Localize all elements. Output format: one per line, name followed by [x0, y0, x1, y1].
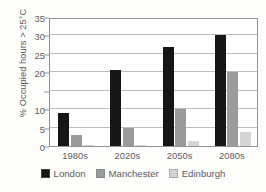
plot-area — [49, 18, 258, 147]
x-axis-tick-label: 1980s — [62, 150, 88, 161]
bar-edinburgh-2050s — [188, 141, 199, 146]
x-axis-tick-label: 2050s — [167, 150, 193, 161]
gridline — [50, 127, 257, 128]
legend-item-label: Manchester — [109, 168, 159, 179]
y-axis-tick-label: 0 — [5, 142, 45, 153]
bar-manchester-2050s — [175, 109, 186, 146]
x-axis-tick-label: 2080s — [219, 150, 245, 161]
y-axis-tick-label: 35 — [5, 13, 45, 24]
bar-chart-figure: % Occupied hours > 25°C 051020253035 198… — [0, 0, 266, 192]
bar-manchester-2020s — [123, 128, 134, 146]
legend-item-london[interactable]: London — [41, 168, 86, 179]
bar-manchester-2080s — [227, 72, 238, 146]
y-axis-tick-label: 30 — [5, 31, 45, 42]
y-axis-tick-label: 5 — [5, 123, 45, 134]
legend-item-edinburgh[interactable]: Edinburgh — [169, 168, 226, 179]
y-axis-tick-label: 25 — [5, 49, 45, 60]
bar-london-2050s — [163, 47, 174, 147]
bar-edinburgh-2020s — [135, 145, 146, 146]
legend-swatch-icon — [169, 169, 178, 178]
gridline — [50, 71, 257, 72]
y-axis-tick-label: 20 — [5, 68, 45, 79]
bar-manchester-1980s — [71, 135, 82, 146]
x-axis-tick-label: 2020s — [115, 150, 141, 161]
legend-swatch-icon — [96, 169, 105, 178]
chart-legend: LondonManchesterEdinburgh — [0, 168, 266, 179]
bar-london-2020s — [110, 70, 121, 146]
gridline — [50, 53, 257, 54]
legend-item-label: London — [54, 168, 86, 179]
gridline — [50, 34, 257, 35]
gridline — [50, 108, 257, 109]
y-axis-tick-label: 10 — [5, 105, 45, 116]
gridline — [50, 90, 257, 91]
legend-swatch-icon — [41, 169, 50, 178]
bar-london-2080s — [215, 35, 226, 146]
bar-edinburgh-2080s — [240, 132, 251, 146]
bar-london-1980s — [58, 113, 69, 146]
legend-item-manchester[interactable]: Manchester — [96, 168, 159, 179]
legend-item-label: Edinburgh — [182, 168, 226, 179]
bar-edinburgh-1980s — [83, 145, 94, 146]
